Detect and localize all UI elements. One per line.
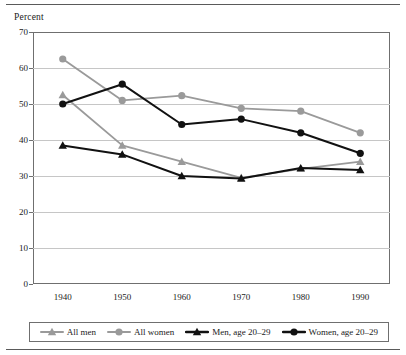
y-axis-tick-label: 50	[19, 99, 28, 109]
x-axis-tick-label: 1990	[351, 292, 369, 302]
y-axis-tick-label: 0	[24, 279, 29, 289]
data-point-marker-circle	[119, 97, 126, 104]
x-axis-tick-label: 1980	[292, 292, 310, 302]
y-axis-tick-label: 30	[19, 171, 28, 181]
plot-area: 010203040506070 194019501960197019801990	[33, 32, 390, 284]
legend-item[interactable]: Women, age 20–29	[282, 326, 379, 338]
legend-item-label: All women	[134, 327, 174, 337]
data-point-marker-circle	[59, 100, 66, 107]
legend-item-label: All men	[67, 327, 96, 337]
y-axis-tick-label: 40	[19, 135, 28, 145]
data-point-marker-circle	[59, 55, 66, 62]
data-point-marker-circle	[290, 328, 297, 335]
legend-marker-circle-icon	[282, 326, 306, 338]
legend-item[interactable]: Men, age 20–29	[185, 326, 270, 338]
y-axis-tick-mark	[29, 284, 33, 285]
data-point-marker-triangle	[59, 91, 67, 98]
series-line	[63, 95, 361, 178]
y-axis-tick-label: 10	[19, 243, 28, 253]
data-point-marker-circle	[238, 116, 245, 123]
data-point-marker-circle	[297, 108, 304, 115]
x-axis-tick-label: 1970	[232, 292, 250, 302]
legend-marker-triangle-icon	[40, 326, 64, 338]
chart-legend: All menAll womenMen, age 20–29Women, age…	[29, 322, 389, 342]
data-point-marker-circle	[357, 150, 364, 157]
x-axis-tick-label: 1950	[113, 292, 131, 302]
legend-item[interactable]: All women	[107, 326, 174, 338]
series-all-women	[59, 55, 364, 136]
data-point-marker-circle	[178, 92, 185, 99]
x-axis-tick-label: 1960	[173, 292, 191, 302]
data-point-marker-circle	[119, 81, 126, 88]
series-line	[63, 84, 361, 153]
legend-marker-circle-icon	[107, 326, 131, 338]
data-series-group	[33, 32, 390, 284]
data-point-marker-circle	[116, 328, 123, 335]
top-divider-rule	[6, 4, 400, 5]
y-axis-title: Percent	[14, 12, 44, 22]
series-line	[63, 145, 361, 178]
data-point-marker-circle	[238, 105, 245, 112]
y-axis-tick-label: 60	[19, 63, 28, 73]
series-women-age-20-29	[59, 81, 364, 157]
legend-item[interactable]: All men	[40, 326, 96, 338]
data-point-marker-circle	[178, 121, 185, 128]
legend-item-label: Women, age 20–29	[309, 327, 379, 337]
legend-marker-triangle-icon	[185, 326, 209, 338]
legend-item-label: Men, age 20–29	[212, 327, 270, 337]
bottom-divider-rule	[6, 349, 400, 350]
y-axis-tick-label: 20	[19, 207, 28, 217]
series-all-men	[59, 91, 365, 181]
figure-container: Percent 010203040506070 1940195019601970…	[0, 0, 406, 355]
x-axis-tick-label: 1940	[54, 292, 72, 302]
y-axis-tick-label: 70	[19, 27, 28, 37]
data-point-marker-circle	[297, 129, 304, 136]
series-men-age-20-29	[59, 141, 365, 182]
data-point-marker-circle	[357, 129, 364, 136]
